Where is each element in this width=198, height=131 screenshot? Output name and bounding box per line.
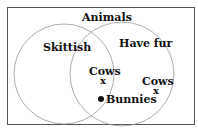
bunnies-dot	[98, 96, 104, 102]
set-label-have-fur: Have fur	[119, 38, 172, 49]
element-label-bunnies: Bunnies	[106, 94, 157, 105]
set-label-skittish: Skittish	[43, 42, 91, 53]
universe-label: Animals	[82, 12, 132, 23]
x-marker: x	[100, 76, 106, 86]
